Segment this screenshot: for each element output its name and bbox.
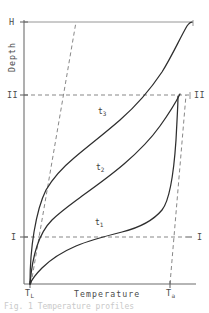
t3-subscript: 3 bbox=[103, 110, 107, 117]
reference-lines bbox=[24, 22, 191, 284]
temperature-depth-figure: Depth Temperature H TL Ta II II I I t1 t… bbox=[0, 0, 209, 313]
t1-subscript: 1 bbox=[100, 221, 104, 228]
y-axis-label: Depth bbox=[7, 42, 17, 72]
t2-subscript: 2 bbox=[101, 166, 105, 173]
Ta-dashed-line bbox=[170, 95, 186, 284]
curve-t3 bbox=[30, 22, 192, 284]
level-II-label-left: II bbox=[7, 90, 18, 100]
curve-label-t1: t1 bbox=[95, 218, 104, 228]
curve-t1 bbox=[30, 96, 178, 284]
x-tick-label-TL: TL bbox=[25, 288, 35, 299]
temperature-curves bbox=[30, 22, 192, 284]
axis-labels: Depth Temperature H TL Ta bbox=[7, 17, 176, 299]
plot-frame bbox=[24, 20, 196, 284]
x-tick-label-Ta: Ta bbox=[166, 288, 176, 299]
Ta-subscript: a bbox=[172, 292, 176, 299]
curve-labels: t1 t2 t3 bbox=[95, 107, 107, 228]
level-I-label-left: I bbox=[11, 232, 16, 242]
y-tick-label-H: H bbox=[9, 17, 15, 27]
curve-label-t2: t2 bbox=[96, 163, 105, 173]
chart-canvas: Depth Temperature H TL Ta II II I I t1 t… bbox=[0, 0, 209, 313]
curve-label-t3: t3 bbox=[98, 107, 107, 117]
TL-subscript: L bbox=[31, 292, 35, 299]
tick-marks bbox=[20, 22, 192, 288]
x-axis-label: Temperature bbox=[74, 289, 140, 299]
figure-caption: Fig. 1 Temperature profiles bbox=[4, 301, 209, 313]
curve-t2 bbox=[30, 94, 180, 284]
level-I-label-right: I bbox=[197, 232, 202, 242]
level-II-label-right: II bbox=[194, 90, 205, 100]
